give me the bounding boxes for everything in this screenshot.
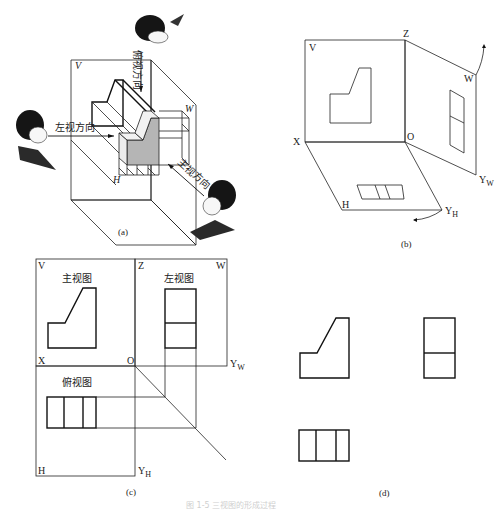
view-title-front: 主视图 xyxy=(62,272,92,284)
plane-label-h: H xyxy=(112,174,121,185)
axis-label-yw: YW xyxy=(230,358,245,372)
front-view-shape xyxy=(300,318,349,378)
axis-label-yw: YW xyxy=(479,174,494,188)
observer-top-icon xyxy=(135,14,184,43)
view-title-left: 左视图 xyxy=(164,272,194,284)
panel-label-c: (c) xyxy=(126,487,136,497)
axis-label-z: Z xyxy=(138,260,144,271)
h-plane xyxy=(305,142,442,210)
panel-d-final-views: (d) xyxy=(299,318,455,498)
axis-label-o: O xyxy=(407,131,414,142)
object-solid xyxy=(92,80,189,175)
axis-label-z: Z xyxy=(403,28,409,39)
figure-caption: 图 1-5 三视图的形成过程 xyxy=(186,500,276,510)
observer-left-icon xyxy=(16,110,56,170)
v-plane xyxy=(305,40,405,142)
axis-label-yh: YH xyxy=(445,205,458,219)
observer-front-icon xyxy=(190,180,236,240)
left-view-shape xyxy=(424,318,455,378)
axis-label-x: X xyxy=(38,355,46,366)
panel-label-d: (d) xyxy=(379,488,390,498)
direction-label-front: 主视方向 xyxy=(176,156,214,192)
h-plane xyxy=(71,200,196,245)
axis-label-x: X xyxy=(293,136,301,147)
axis-label-v: V xyxy=(309,42,317,53)
panel-label-a: (a) xyxy=(118,227,128,237)
axis-label-h: H xyxy=(342,199,349,210)
axis-label-o: O xyxy=(127,355,134,366)
left-view-shape xyxy=(165,289,196,348)
axis-label-w: W xyxy=(464,73,474,84)
plane-label-v: V xyxy=(75,60,83,71)
axis-label-h: H xyxy=(38,465,45,476)
view-title-top: 俯视图 xyxy=(62,376,92,388)
panel-label-b: (b) xyxy=(401,239,412,249)
direction-label-left: 左视方向 xyxy=(55,121,95,133)
three-view-formation-figure: V W H 俯视方向 左视方向 主视方向 (a) xyxy=(0,0,497,511)
panel-c-unfolded-views: V Z W X O YW H YH 主视图 左视图 俯视图 (c) xyxy=(36,259,245,497)
axis-label-v: V xyxy=(38,260,46,271)
axis-label-w: W xyxy=(216,260,226,271)
w-plane xyxy=(405,40,476,175)
panel-b-unfolding-planes: V Z W X O H YW YH (b) xyxy=(293,28,494,249)
top-view-shape xyxy=(47,397,96,428)
plane-label-w: W xyxy=(185,103,195,114)
axis-label-yh: YH xyxy=(138,465,151,479)
direction-label-top: 俯视方向 xyxy=(132,50,144,90)
top-view-shape xyxy=(299,430,349,461)
front-view-shape xyxy=(48,288,96,348)
panel-a-isometric-projection: V W H 俯视方向 左视方向 主视方向 (a) xyxy=(16,14,236,245)
